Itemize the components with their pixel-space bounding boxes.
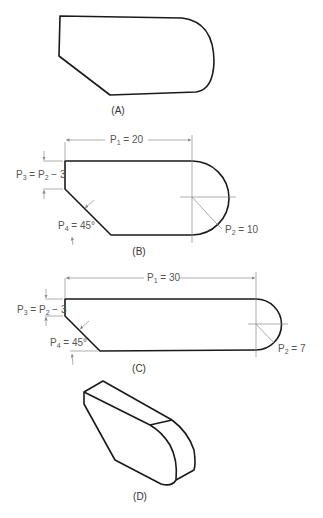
figure-b: P1 = 20 P2 = 10 P3 = P2 − 3 P4 = 45° (B) [16, 134, 259, 257]
figure-a-profile [59, 16, 214, 95]
figure-c-p1-label: P1 = 30 [147, 272, 181, 284]
figure-b-p4-label: P4 = 45° [58, 220, 95, 232]
figure-a: (A) [59, 16, 214, 116]
figure-c-caption: (C) [132, 363, 146, 374]
parametric-drawing-canvas: (A) P1 = 20 P2 = 10 P3 = P2 − 3 P4 = [0, 0, 323, 518]
figure-c: P1 = 30 P2 = 7 P3 = P2 − 3 P4 = 45° (C) [17, 272, 306, 374]
figure-c-p3-label: P3 = P2 − 3 [17, 304, 67, 316]
figure-b-p3-label: P3 = P2 − 3 [16, 169, 66, 181]
figure-b-p2-label: P2 = 10 [225, 224, 259, 236]
figure-d-front-face [84, 392, 176, 485]
figure-b-p1-label: P1 = 20 [110, 134, 144, 146]
figure-d-caption: (D) [133, 491, 147, 502]
figure-d-side-face [172, 420, 195, 480]
figure-d: (D) [84, 381, 195, 502]
figure-c-p4-label: P4 = 45° [50, 337, 87, 349]
figure-c-p2-label: P2 = 7 [278, 343, 306, 355]
figure-b-caption: (B) [132, 246, 145, 257]
figure-c-profile [65, 299, 282, 351]
figure-a-caption: (A) [111, 105, 124, 116]
